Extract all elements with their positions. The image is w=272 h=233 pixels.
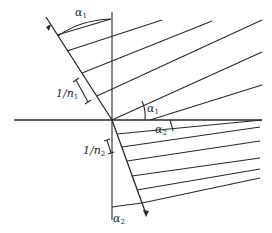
spacing2-label: 1/n2 — [83, 145, 105, 158]
spacing1-label: 1/n1 — [56, 88, 78, 101]
incident-arrow-icon — [46, 24, 51, 31]
refraction-diagram: α1 α1 α2 α2 1/n1 1/n2 — [0, 0, 272, 233]
upper-wavefronts — [57, 19, 262, 120]
alpha1-mid-label: α1 — [147, 103, 159, 116]
alpha1-mid-arc — [142, 101, 145, 120]
alpha2-bottom-arc — [112, 203, 142, 207]
incident-ray — [46, 17, 112, 120]
lower-wavefronts — [117, 120, 262, 203]
alpha2-mid-label: α2 — [155, 124, 167, 137]
alpha2-bottom-label: α2 — [113, 213, 125, 226]
diagram-canvas — [0, 0, 272, 233]
alpha1-top-label: α1 — [75, 7, 87, 20]
refracted-arrow-icon — [143, 210, 149, 217]
